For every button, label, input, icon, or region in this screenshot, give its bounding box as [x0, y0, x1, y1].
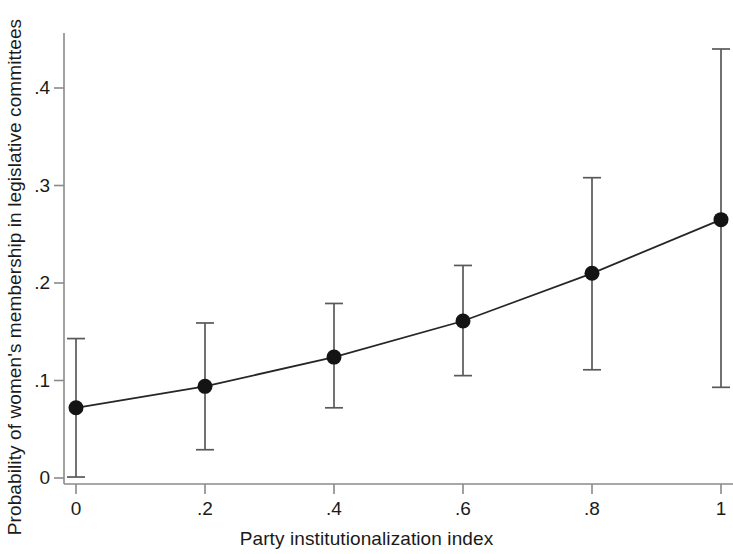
y-tick-label: .1 — [34, 370, 50, 392]
y-tick-label: .4 — [34, 77, 50, 99]
data-point-marker — [714, 212, 729, 227]
data-point-markers — [69, 212, 729, 415]
x-tick-marks — [76, 484, 721, 494]
data-point-marker — [198, 379, 213, 394]
x-tick-label: .8 — [584, 498, 600, 520]
data-point-marker — [585, 266, 600, 281]
data-point-marker — [69, 400, 84, 415]
x-axis-title: Party institutionalization index — [0, 528, 733, 550]
axis-lines — [64, 33, 733, 484]
y-axis-title-container: Probability of women's membership in leg… — [0, 0, 30, 554]
series-line — [76, 220, 721, 408]
y-tick-label: .2 — [34, 272, 50, 294]
y-tick-label: .3 — [34, 175, 50, 197]
y-axis-title: Probability of women's membership in leg… — [4, 19, 26, 535]
y-tick-marks — [54, 88, 64, 478]
x-tick-label: .2 — [197, 498, 213, 520]
data-point-marker — [456, 314, 471, 329]
data-point-marker — [327, 350, 342, 365]
x-tick-label: .6 — [455, 498, 471, 520]
x-tick-label: 0 — [71, 498, 82, 520]
x-tick-label: .4 — [326, 498, 342, 520]
plot-area — [0, 0, 733, 554]
error-bars — [67, 49, 730, 477]
x-tick-label: 1 — [716, 498, 727, 520]
chart-figure: 0.1.2.3.4 0.2.4.6.81 Probability of wome… — [0, 0, 733, 554]
y-tick-label: 0 — [39, 467, 50, 489]
